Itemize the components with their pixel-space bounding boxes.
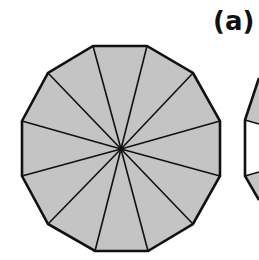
dodecagon-figure xyxy=(0,0,259,260)
center-point xyxy=(119,147,124,152)
figure-label: (a) xyxy=(213,6,254,36)
dodecagon-shape xyxy=(22,46,220,251)
partial-polygon-shape xyxy=(245,78,259,200)
